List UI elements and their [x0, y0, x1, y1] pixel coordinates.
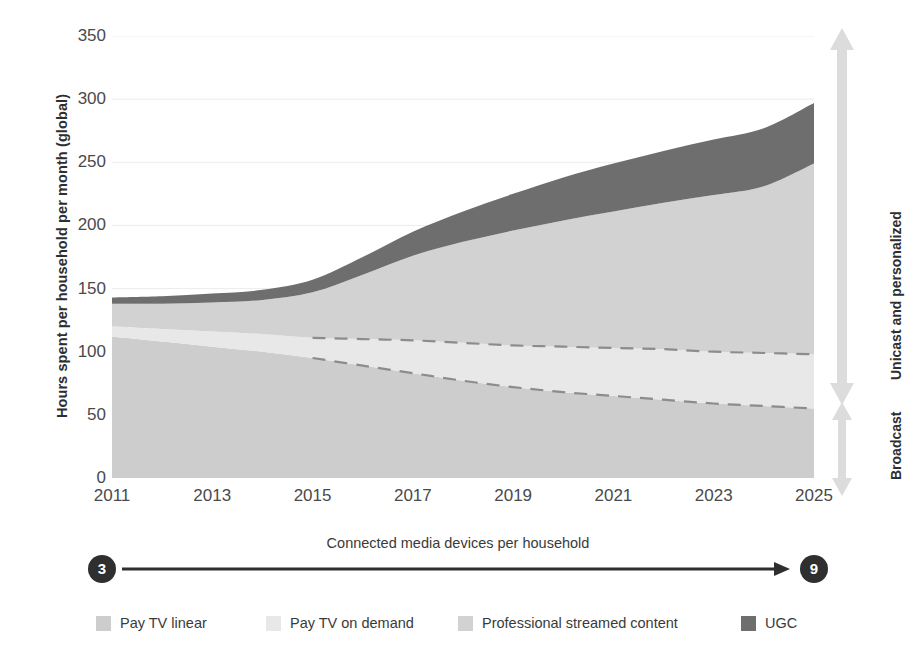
side-annotations: Unicast and personalized Broadcast	[820, 28, 916, 498]
legend-swatch-icon	[96, 616, 111, 631]
chart-legend: Pay TV linearPay TV on demandProfessiona…	[96, 612, 856, 640]
device-count-start-badge: 3	[88, 555, 116, 583]
x-axis-tick-labels: 20112013201520172019202120232025	[112, 486, 814, 516]
legend-swatch-icon	[266, 616, 281, 631]
side-label-broadcast: Broadcast	[888, 412, 904, 480]
y-tick-label: 100	[58, 342, 106, 362]
y-tick-label: 150	[58, 279, 106, 299]
x-tick-label: 2015	[278, 486, 348, 506]
legend-label: UGC	[765, 615, 797, 631]
device-arrow-icon	[122, 561, 794, 577]
legend-item[interactable]: Pay TV on demand	[266, 612, 414, 634]
legend-label: Pay TV on demand	[290, 615, 414, 631]
broadcast-arrow-icon	[832, 402, 852, 496]
legend-label: Pay TV linear	[120, 615, 207, 631]
x-tick-label: 2021	[578, 486, 648, 506]
legend-item[interactable]: Pay TV linear	[96, 612, 207, 634]
x-tick-label: 2013	[177, 486, 247, 506]
legend-swatch-icon	[458, 616, 473, 631]
y-tick-label: 350	[58, 26, 106, 46]
area-series-group	[112, 103, 814, 478]
legend-label: Professional streamed content	[482, 615, 678, 631]
device-annotation: Connected media devices per household 3 …	[88, 535, 828, 591]
device-annotation-caption: Connected media devices per household	[128, 535, 788, 551]
side-label-unicast: Unicast and personalized	[888, 211, 904, 380]
legend-item[interactable]: UGC	[741, 612, 797, 634]
y-tick-label: 50	[58, 405, 106, 425]
y-tick-label: 0	[58, 468, 106, 488]
stacked-area-plot	[112, 36, 814, 478]
legend-swatch-icon	[741, 616, 756, 631]
y-tick-label: 300	[58, 89, 106, 109]
x-tick-label: 2023	[679, 486, 749, 506]
y-tick-label: 250	[58, 152, 106, 172]
device-count-end-badge: 9	[800, 555, 828, 583]
legend-item[interactable]: Professional streamed content	[458, 612, 678, 634]
x-tick-label: 2017	[378, 486, 448, 506]
x-tick-label: 2019	[478, 486, 548, 506]
plot-svg	[112, 36, 814, 478]
unicast-arrow-icon	[830, 28, 854, 405]
chart-canvas: Hours spent per household per month (glo…	[0, 0, 920, 670]
x-tick-label: 2011	[77, 486, 147, 506]
y-tick-label: 200	[58, 215, 106, 235]
